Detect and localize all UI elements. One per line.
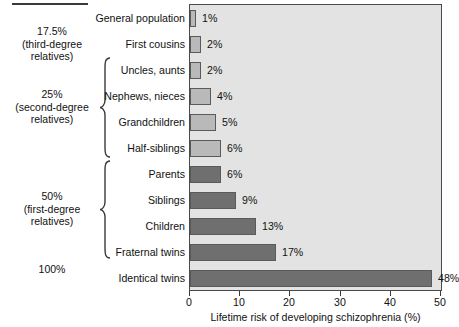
bar-uncles-aunts bbox=[190, 62, 201, 79]
group-label-line: 17.5% bbox=[4, 25, 100, 38]
xaxis-ticklabel-30: 30 bbox=[325, 296, 355, 308]
plot-area: 1% 2% 2% 4% 5% 6% 6% 9% 13% 17% 48% bbox=[189, 4, 442, 291]
bar-grandchildren bbox=[190, 114, 216, 131]
category-label-grandchildren: Grandchildren bbox=[35, 116, 185, 128]
bar-value-grandchildren: 5% bbox=[222, 116, 237, 128]
category-label-identical-twins: Identical twins bbox=[35, 272, 185, 284]
bar-value-uncles-aunts: 2% bbox=[207, 64, 222, 76]
xaxis-ticklabel-50: 50 bbox=[425, 296, 455, 308]
bar-half-siblings bbox=[190, 140, 221, 157]
xaxis-ticklabel-10: 10 bbox=[224, 296, 254, 308]
category-label-uncles-aunts: Uncles, aunts bbox=[35, 64, 185, 76]
top-rule bbox=[12, 3, 88, 5]
bar-siblings bbox=[190, 192, 236, 209]
category-label-siblings: Siblings bbox=[35, 194, 185, 206]
bar-value-fraternal-twins: 17% bbox=[282, 246, 303, 258]
xaxis-ticklabel-40: 40 bbox=[375, 296, 405, 308]
bar-value-siblings: 9% bbox=[242, 194, 257, 206]
bar-value-identical-twins: 48% bbox=[438, 272, 459, 284]
category-label-fraternal-twins: Fraternal twins bbox=[35, 246, 185, 258]
bar-value-parents: 6% bbox=[227, 168, 242, 180]
group-label-line: (second-degree bbox=[4, 101, 100, 114]
bar-fraternal-twins bbox=[190, 244, 276, 261]
category-label-nephews-nieces: Nephews, nieces bbox=[35, 90, 185, 102]
category-label-parents: Parents bbox=[35, 168, 185, 180]
bar-nephews-nieces bbox=[190, 88, 211, 105]
xaxis-ticklabel-0: 0 bbox=[174, 296, 204, 308]
bar-children bbox=[190, 218, 256, 235]
xaxis-title: Lifetime risk of developing schizophreni… bbox=[189, 311, 442, 323]
bar-value-first-cousins: 2% bbox=[207, 38, 222, 50]
bar-value-nephews-nieces: 4% bbox=[217, 90, 232, 102]
category-label-children: Children bbox=[35, 220, 185, 232]
category-label-first-cousins: First cousins bbox=[35, 38, 185, 50]
category-label-half-siblings: Half-siblings bbox=[35, 142, 185, 154]
bar-value-half-siblings: 6% bbox=[227, 142, 242, 154]
bar-identical-twins bbox=[190, 270, 432, 287]
bar-general-population bbox=[190, 10, 196, 27]
bar-parents bbox=[190, 166, 221, 183]
group-label-line: relatives) bbox=[4, 50, 100, 63]
category-label-general-population: General population bbox=[35, 12, 185, 24]
xaxis-ticklabel-20: 20 bbox=[274, 296, 304, 308]
bar-value-children: 13% bbox=[262, 220, 283, 232]
bar-first-cousins bbox=[190, 36, 201, 53]
bar-value-general-population: 1% bbox=[202, 12, 217, 24]
